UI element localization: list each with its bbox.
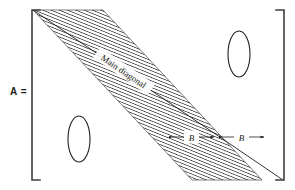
upper-zero-symbol: 0 bbox=[228, 31, 250, 77]
matrix-diagram-canvas: Main diagonal 0 0 B B bbox=[0, 0, 295, 190]
lower-zero-symbol: 0 bbox=[68, 116, 90, 162]
bandwidth-label-left: B bbox=[189, 133, 195, 143]
right-bracket bbox=[276, 10, 284, 180]
left-bracket bbox=[32, 10, 40, 180]
bandwidth-label-right: B bbox=[239, 133, 245, 143]
banded-matrix-figure: A = bbox=[0, 0, 295, 190]
hatched-band bbox=[33, 10, 262, 180]
